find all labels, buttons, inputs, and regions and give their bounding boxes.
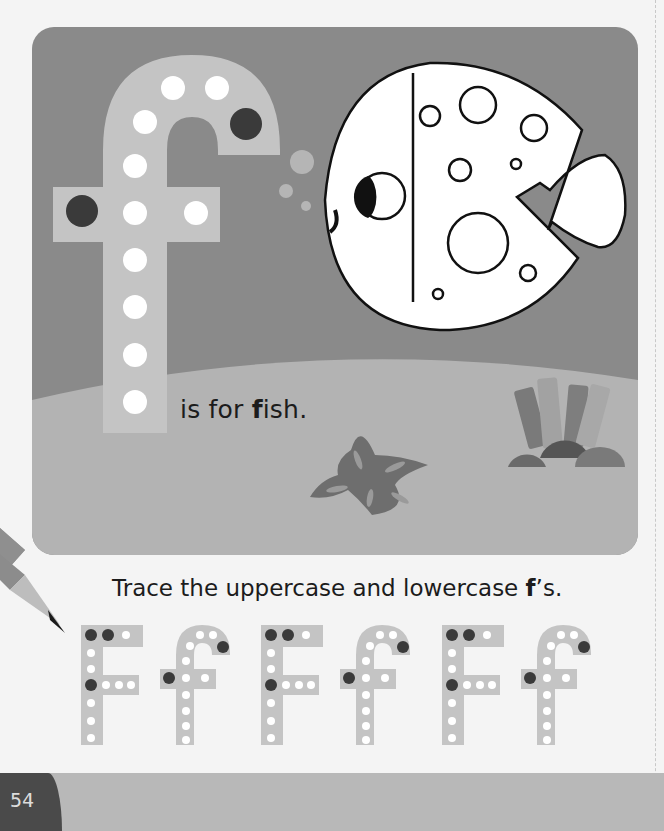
trace-uppercase-f-3 bbox=[442, 625, 504, 745]
instruction-text: Trace the uppercase and lowercase f’s. bbox=[112, 575, 562, 601]
trace-lowercase-f-2 bbox=[340, 625, 410, 745]
fish-icon bbox=[325, 63, 625, 330]
trace-lowercase-f-1 bbox=[160, 625, 230, 745]
page-number: 54 bbox=[10, 788, 34, 812]
bubbles-icon bbox=[279, 150, 314, 211]
tracing-letters[interactable] bbox=[0, 615, 640, 755]
trace-lowercase-f-3 bbox=[521, 625, 591, 745]
footer-bar bbox=[0, 773, 664, 831]
trace-uppercase-f-1 bbox=[81, 625, 143, 745]
illustration-panel bbox=[32, 27, 638, 555]
underwater-scene bbox=[32, 27, 638, 555]
trace-uppercase-f-2 bbox=[261, 625, 323, 745]
cut-line bbox=[655, 0, 657, 831]
caption-text: is for fish. bbox=[180, 395, 307, 424]
